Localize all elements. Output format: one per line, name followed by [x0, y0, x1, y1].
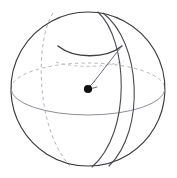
- spherical-cap-front-arc: [58, 46, 122, 56]
- sphere-diagram-canvas: [0, 0, 177, 178]
- sphere-center-dot: [84, 85, 92, 93]
- meridian-back-dashed-arc: [41, 13, 70, 166]
- meridian-front-right-arc: [103, 13, 134, 166]
- sphere-diagram-figure: [0, 0, 177, 178]
- cap-circle-hidden-dashed-arc: [56, 61, 124, 66]
- meridian-front-left-arc: [92, 12, 121, 167]
